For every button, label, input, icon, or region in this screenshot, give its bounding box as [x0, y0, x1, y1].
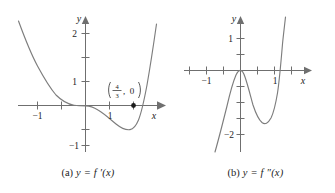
y-axis-arrow-a — [82, 16, 89, 24]
x-tick-label-b-pos1: 1 — [273, 76, 278, 86]
y-axis-label-b: y — [231, 13, 237, 24]
x-axis-label-a: x — [151, 110, 157, 121]
x-tick-label-b-neg1: −1 — [201, 76, 211, 86]
x-tick-label-a-pos1: 1 — [108, 111, 113, 121]
panel-a: y x −1 1 2 1 −1 4 3 , 0 — [0, 0, 176, 193]
root-annotation-a: 4 3 , 0 — [109, 82, 141, 99]
caption-b-tag: (b) — [228, 167, 240, 178]
x-axis-arrow-a — [158, 102, 166, 109]
y-axis-label-a: y — [76, 13, 82, 24]
caption-a: (a)y = f ′(x) — [0, 166, 176, 179]
y-tick-label-a-1: 1 — [72, 77, 77, 87]
annotation-comma-a: , — [123, 86, 125, 96]
caption-a-equation: y = f ′(x) — [76, 167, 115, 178]
y-tick-label-b-neg2: −2 — [224, 130, 234, 140]
y-tick-label-b-1: 1 — [228, 34, 233, 44]
caption-b: (b)y = f ″(x) — [176, 166, 335, 179]
caption-a-tag: (a) — [61, 167, 73, 178]
y-axis-arrow-b — [237, 16, 244, 24]
panel-b: y x −1 1 1 −2 (b)y = f ″(x) — [176, 0, 335, 193]
figure-container: y x −1 1 2 1 −1 4 3 , 0 — [0, 0, 335, 193]
root-point-marker-a — [131, 103, 136, 108]
caption-b-equation: y = f ″(x) — [243, 167, 284, 178]
annotation-denominator-a: 3 — [115, 92, 118, 99]
plot-b-svg: y x −1 1 1 −2 — [176, 0, 335, 166]
annotation-open-paren-a — [109, 82, 111, 98]
x-axis-label-b: x — [300, 75, 306, 86]
annotation-numerator-a: 4 — [115, 83, 119, 90]
y-tick-label-a-neg1: −1 — [69, 141, 79, 151]
annotation-close-paren-a — [139, 82, 141, 98]
y-tick-label-a-2: 2 — [72, 29, 77, 39]
x-axis-arrow-b — [304, 67, 312, 74]
annotation-zero-a: 0 — [130, 86, 135, 96]
x-tick-label-a-neg1: −1 — [32, 111, 42, 121]
plot-a-svg: y x −1 1 2 1 −1 4 3 , 0 — [0, 0, 176, 166]
